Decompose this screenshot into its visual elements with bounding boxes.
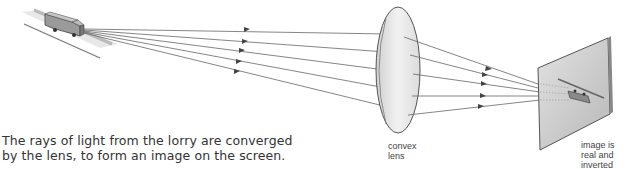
- refracted-rays: [404, 37, 540, 115]
- image-label: image is real and inverted: [581, 140, 615, 169]
- image-label-line-1: image is: [581, 140, 615, 150]
- lens-label-line-2: lens: [388, 151, 417, 161]
- image-label-line-2: real and: [581, 150, 615, 160]
- road: [22, 10, 118, 58]
- caption-line-1: The rays of light from the lorry are con…: [2, 133, 293, 148]
- caption-line-2: by the lens, to form an image on the scr…: [2, 148, 293, 163]
- image-label-line-3: inverted: [581, 160, 615, 169]
- diagram-caption: The rays of light from the lorry are con…: [2, 133, 293, 163]
- lens-label: convex lens: [388, 141, 417, 161]
- lorry-icon: [45, 12, 84, 37]
- lens-label-line-1: convex: [388, 141, 417, 151]
- arrowheads-refracted: [478, 66, 492, 109]
- incident-rays: [84, 29, 388, 107]
